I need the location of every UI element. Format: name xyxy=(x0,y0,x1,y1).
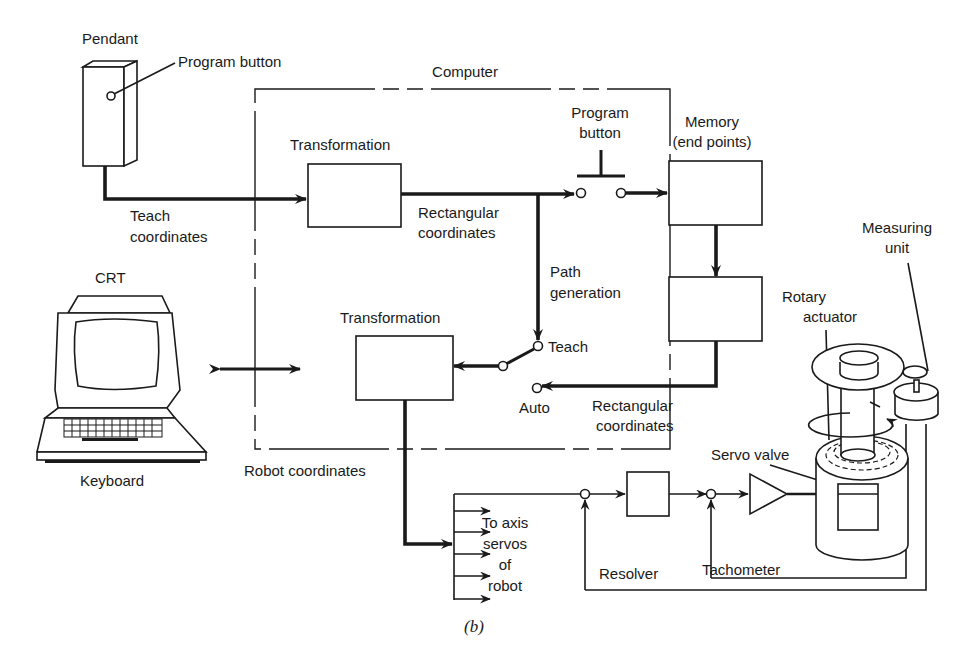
svg-text:Servo valve: Servo valve xyxy=(711,446,789,463)
svg-text:To axis: To axis xyxy=(482,514,529,531)
svg-text:coordinates: coordinates xyxy=(418,224,496,241)
svg-text:Path: Path xyxy=(550,263,581,280)
svg-text:robot: robot xyxy=(488,577,523,594)
memory-block: Memory (end points) xyxy=(669,113,762,225)
svg-text:Auto: Auto xyxy=(519,399,550,416)
computer-label: Computer xyxy=(432,63,498,80)
svg-text:Transformation: Transformation xyxy=(290,136,390,153)
svg-text:Transformation: Transformation xyxy=(340,309,440,326)
svg-text:Program: Program xyxy=(571,104,629,121)
svg-text:Rectangular: Rectangular xyxy=(592,397,673,414)
svg-text:Teach: Teach xyxy=(548,338,588,355)
svg-text:Resolver: Resolver xyxy=(599,565,658,582)
svg-text:Rectangular: Rectangular xyxy=(418,204,499,221)
svg-text:Measuring: Measuring xyxy=(862,219,932,236)
svg-text:button: button xyxy=(579,124,621,141)
figure-caption: (b) xyxy=(464,617,484,636)
svg-text:actuator: actuator xyxy=(803,308,857,325)
program-button-switch: Program button xyxy=(571,104,629,198)
axis-servo-fanout: To axis servos of robot xyxy=(454,494,581,600)
svg-text:Robot coordinates: Robot coordinates xyxy=(244,462,366,479)
svg-text:Keyboard: Keyboard xyxy=(80,472,144,489)
pendant: Pendant Program button Teach coordinates xyxy=(82,30,306,245)
svg-text:servos: servos xyxy=(483,535,527,552)
svg-text:coordinates: coordinates xyxy=(596,417,674,434)
interpolation-block xyxy=(669,277,762,341)
crt-terminal-icon: CRT Keyboard xyxy=(37,269,206,489)
pendant-label: Pendant xyxy=(82,30,139,47)
teach-auto-switch: Teach Auto xyxy=(499,338,589,416)
svg-text:Rotary: Rotary xyxy=(782,288,827,305)
pendant-program-button-label: Program button xyxy=(178,53,281,70)
svg-text:CRT: CRT xyxy=(95,269,126,286)
svg-text:Tachometer: Tachometer xyxy=(702,561,780,578)
svg-text:unit: unit xyxy=(885,239,910,256)
teach-coordinates-label: Teach xyxy=(130,207,170,224)
svg-text:Memory: Memory xyxy=(685,113,740,130)
rotary-actuator-icon: Rotary actuator Measuring unit xyxy=(782,219,938,560)
pendant-program-button-icon xyxy=(107,92,115,100)
svg-text:coordinates: coordinates xyxy=(130,228,208,245)
robot-control-diagram: Computer Pendant Program button Teach co… xyxy=(0,0,975,661)
transformation-bottom-block: Transformation xyxy=(340,309,453,400)
svg-text:(end points): (end points) xyxy=(672,133,751,150)
svg-text:of: of xyxy=(499,556,512,573)
transformation-top-block: Transformation xyxy=(290,136,401,227)
svg-text:generation: generation xyxy=(550,284,621,301)
